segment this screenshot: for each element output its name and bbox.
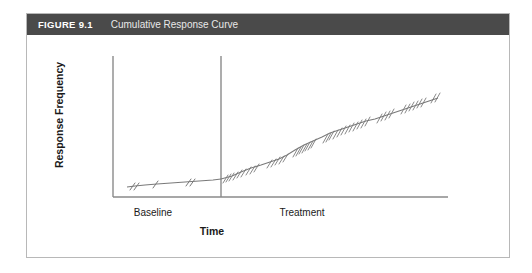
phase-label-baseline: Baseline [113, 207, 193, 218]
figure-header-bar: FIGURE 9.1 Cumulative Response Curve [27, 14, 509, 35]
baseline-curve-segment [127, 179, 221, 187]
phase-label-treatment: Treatment [257, 207, 347, 218]
figure-title: Cumulative Response Curve [111, 19, 238, 30]
treatment-response-marks [223, 93, 440, 183]
chart-plot-area: Response Frequency [27, 35, 511, 258]
figure-card: FIGURE 9.1 Cumulative Response Curve Res… [26, 13, 510, 258]
figure-number: FIGURE 9.1 [38, 19, 93, 30]
x-axis-label: Time [177, 225, 247, 237]
baseline-response-marks [130, 179, 195, 190]
cumulative-response-curve-svg [27, 35, 511, 258]
